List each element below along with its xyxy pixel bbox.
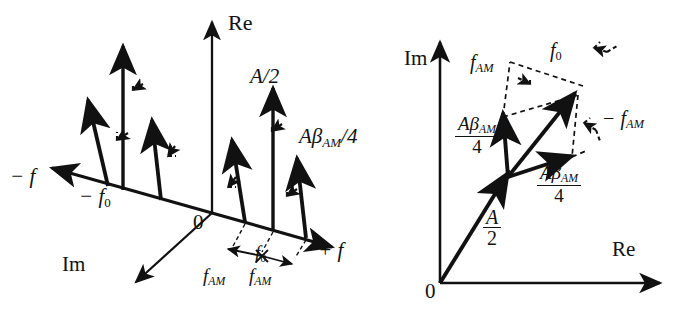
right-phasor-label-carrier: A 2 <box>483 207 501 248</box>
phasor-upper-sideband <box>503 113 508 177</box>
left-origin-label: 0 <box>193 212 204 233</box>
left-sideband-amplitude-label: AβAM/4 <box>299 126 357 149</box>
right-rotation-label-upper-sideband: fAM <box>470 52 493 75</box>
spectral-line-pos-upper-sideband <box>297 158 306 238</box>
spectral-line-neg-upper-sideband <box>152 120 161 200</box>
rotation-arrow-fam-lower <box>584 118 600 141</box>
left-carrier-amplitude-label: A/2 <box>250 66 279 87</box>
rotation-arrow-f0 <box>594 42 617 52</box>
rotation-arrow-pos-upper-sideband <box>287 189 297 196</box>
diagram-artwork <box>0 0 694 315</box>
right-rotation-label-lower-sideband: − fAM <box>602 108 644 131</box>
rotation-arrow-pos-lower-sideband <box>228 177 236 187</box>
rotation-arrow-fam-upper <box>518 77 530 84</box>
right-phasor-label-upper-sideband: AβAM 4 <box>455 114 499 156</box>
left-re-axis-label: Re <box>228 12 252 34</box>
right-origin-label: 0 <box>425 281 436 302</box>
construction-parallelogram <box>503 62 588 157</box>
right-rotation-label-carrier: f0 <box>550 40 562 63</box>
right-im-axis-label: Im <box>404 48 427 69</box>
left-negative-frequency-label: − f <box>10 166 35 187</box>
spectral-line-pos-lower-sideband <box>232 140 245 222</box>
left-positive-frequency-label: + f <box>318 240 343 261</box>
left-positive-carrier-tick-label: f0 <box>255 243 266 265</box>
rotation-arrow-neg-upper-sideband <box>168 146 176 156</box>
figure-canvas: Re − f + f Im 0 − f0 f0 A/2 AβAM/4 fAM f… <box>0 0 694 315</box>
left-panel-artwork <box>52 22 332 282</box>
right-phasor-label-lower-sideband: AβAM 4 <box>537 163 581 205</box>
left-im-axis-label: Im <box>62 254 85 275</box>
rotation-arrow-neg-carrier <box>133 83 143 90</box>
spectral-line-neg-lower-sideband <box>88 100 108 186</box>
left-spacing-label-upper: fAM <box>249 266 271 288</box>
left-spacing-label-lower: fAM <box>203 266 225 288</box>
left-negative-carrier-tick-label: − f0 <box>79 186 111 209</box>
right-re-axis-label: Re <box>612 239 635 260</box>
